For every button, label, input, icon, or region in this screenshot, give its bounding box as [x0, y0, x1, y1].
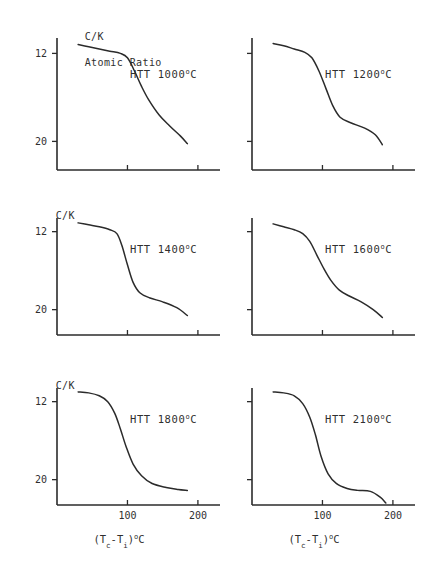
figure-panel-grid: C/K Atomic Ratio C/K C/K 1220HTT 1000oCH…	[0, 0, 436, 574]
data-curve	[273, 224, 382, 318]
panel-label: HTT 1000oC	[130, 68, 197, 80]
x-axis-caption: (Tc-Ti)oC	[288, 533, 339, 550]
panel-htt-htt-1600: HTT 1600oC	[247, 218, 415, 335]
unit-celsius: C	[385, 413, 392, 425]
panel-label: HTT 1200oC	[325, 68, 392, 80]
y-tick-label: 20	[35, 304, 47, 315]
x-tick-label: 100	[313, 510, 331, 521]
panel-label: HTT 1800oC	[130, 413, 197, 425]
panel-htt-htt-1000: 1220HTT 1000oC	[35, 38, 220, 170]
panel-htt-htt-1200: HTT 1200oC	[247, 38, 415, 170]
data-curve	[78, 45, 187, 144]
panel-htt-htt-1400: 1220HTT 1400oC	[35, 218, 220, 335]
panel-label: HTT 2100oC	[325, 413, 392, 425]
plot-canvas: 1220HTT 1000oCHTT 1200oC1220HTT 1400oCHT…	[0, 0, 436, 574]
unit-celsius: C	[190, 68, 197, 80]
unit-celsius: C	[385, 243, 392, 255]
y-tick-label: 12	[35, 48, 47, 59]
y-tick-label: 12	[35, 226, 47, 237]
y-tick-label: 20	[35, 474, 47, 485]
data-curve	[78, 223, 187, 316]
panel-label: HTT 1400oC	[130, 243, 197, 255]
data-curve	[273, 392, 386, 503]
y-tick-label: 20	[35, 136, 47, 147]
x-tick-label: 100	[118, 510, 136, 521]
x-tick-label: 200	[189, 510, 207, 521]
panel-htt-htt-2100: 100200HTT 2100oC(Tc-Ti)oC	[247, 388, 415, 550]
panel-htt-htt-1800: 1220100200HTT 1800oC(Tc-Ti)oC	[35, 388, 220, 550]
unit-celsius: C	[190, 243, 197, 255]
panel-label: HTT 1600oC	[325, 243, 392, 255]
x-axis-caption: (Tc-Ti)oC	[93, 533, 144, 550]
unit-celsius: C	[385, 68, 392, 80]
x-tick-label: 200	[384, 510, 402, 521]
unit-celsius: C	[190, 413, 197, 425]
data-curve	[78, 392, 187, 490]
data-curve	[273, 44, 382, 145]
y-tick-label: 12	[35, 396, 47, 407]
